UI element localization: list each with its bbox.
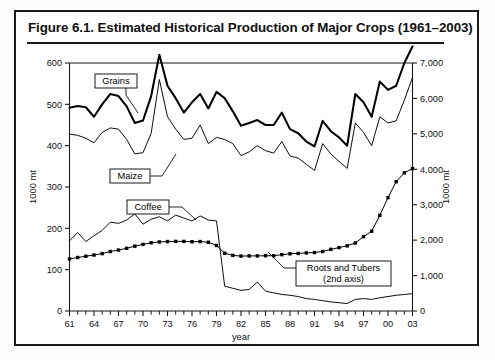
- series-marker-point: [362, 235, 365, 238]
- y-axis-left-tick-label: 500: [47, 100, 62, 110]
- series-marker-point: [207, 241, 210, 244]
- series-marker-point: [296, 252, 299, 255]
- y-axis-right-tick-label: 2,000: [420, 235, 443, 245]
- series-line-coffee: [70, 214, 413, 304]
- y-axis-right-tick-label: 7,000: [420, 58, 443, 68]
- x-axis-tick-label: 67: [113, 319, 123, 329]
- x-axis-tick-label: 97: [358, 319, 368, 329]
- series-marker-point: [231, 254, 234, 257]
- series-marker-point: [321, 250, 324, 253]
- y-axis-left-tick-label: 100: [47, 265, 62, 275]
- series-marker-point: [182, 240, 185, 243]
- series-marker-point: [109, 250, 112, 253]
- series-marker-point: [329, 248, 332, 251]
- x-axis-tick-label: 76: [187, 319, 197, 329]
- series-marker-point: [149, 241, 152, 244]
- y-axis-left-tick-label: 0: [57, 306, 62, 316]
- series-marker-point: [76, 256, 79, 259]
- annotation-maize-label: Maize: [118, 171, 143, 181]
- series-marker-point: [288, 252, 291, 255]
- x-axis-tick-label: 82: [236, 319, 246, 329]
- x-axis-tick-label: 70: [138, 319, 148, 329]
- y-axis-left-tick-label: 200: [47, 224, 62, 234]
- y-axis-right-tick-label: 1,000: [420, 271, 443, 281]
- annotation-maize-leader: [150, 154, 176, 176]
- series-marker-point: [223, 252, 226, 255]
- annotation-roots-and-tubers: Roots and Tubers(2nd axis): [268, 252, 391, 286]
- series-marker-point: [215, 244, 218, 247]
- y-axis-left-tick-label: 300: [47, 182, 62, 192]
- series-marker-point: [125, 247, 128, 250]
- series-marker-point: [280, 253, 283, 256]
- series-marker-point: [190, 240, 193, 243]
- series-marker-point: [403, 171, 406, 174]
- series-marker-point: [256, 254, 259, 257]
- annotation-coffee-leader: [169, 207, 196, 220]
- series-marker-point: [68, 257, 71, 260]
- x-axis-tick-label: 64: [89, 319, 99, 329]
- series-marker-point: [394, 180, 397, 183]
- chart-plot-area: 010020030040050060001,0002,0003,0004,000…: [0, 0, 495, 360]
- annotation-maize: Maize: [110, 154, 176, 183]
- x-axis-tick-label: 61: [64, 319, 74, 329]
- series-marker-point: [345, 244, 348, 247]
- x-axis-tick-label: 00: [383, 319, 393, 329]
- series-marker-point: [247, 254, 250, 257]
- y-axis-right-tick-label: 0: [420, 306, 425, 316]
- annotation-roots-and-tubers-label: Roots and Tubers: [307, 263, 381, 273]
- y-axis-right-tick-label: 6,000: [420, 94, 443, 104]
- x-axis-tick-label: 73: [162, 319, 172, 329]
- series-marker-point: [264, 254, 267, 257]
- series-marker-point: [313, 251, 316, 254]
- x-axis-tick-label: 88: [285, 319, 295, 329]
- series-marker-point: [92, 253, 95, 256]
- y-axis-left-tick-label: 400: [47, 141, 62, 151]
- series-marker-point: [239, 254, 242, 257]
- series-marker-point: [141, 243, 144, 246]
- x-axis-tick-label: 94: [334, 319, 344, 329]
- series-marker-point: [354, 241, 357, 244]
- series-marker-point: [198, 240, 201, 243]
- series-marker-point: [174, 240, 177, 243]
- series-marker-point: [305, 251, 308, 254]
- x-axis-tick-label: 79: [211, 319, 221, 329]
- series-marker-point: [158, 240, 161, 243]
- series-marker-point: [386, 196, 389, 199]
- series-marker-point: [100, 252, 103, 255]
- x-axis-tick-label: 91: [309, 319, 319, 329]
- annotation-roots-and-tubers-label: (2nd axis): [323, 274, 364, 284]
- series-marker-point: [166, 240, 169, 243]
- x-axis-title: year: [232, 331, 250, 342]
- annotation-grains-label: Grains: [102, 76, 130, 86]
- annotation-coffee-label: Coffee: [134, 202, 161, 212]
- x-axis-tick-label: 85: [260, 319, 270, 329]
- figure-page: Figure 6.1. Estimated Historical Product…: [0, 0, 495, 360]
- series-marker-point: [84, 255, 87, 258]
- series-marker-point: [411, 167, 414, 170]
- series-marker-point: [378, 214, 381, 217]
- y-axis-right-tick-label: 5,000: [420, 129, 443, 139]
- x-axis-tick-label: 03: [407, 319, 417, 329]
- series-marker-point: [133, 244, 136, 247]
- crop-production-line-chart: 010020030040050060001,0002,0003,0004,000…: [0, 0, 495, 360]
- series-marker-point: [337, 246, 340, 249]
- y-axis-right-title: 1000 mt: [440, 170, 451, 204]
- y-axis-left-title: 1000 mt: [27, 170, 38, 204]
- series-marker-point: [117, 248, 120, 251]
- y-axis-left-tick-label: 600: [47, 58, 62, 68]
- series-marker-point: [370, 230, 373, 233]
